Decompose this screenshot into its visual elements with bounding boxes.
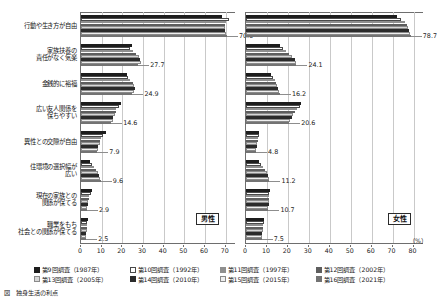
callout-leader-line [268,210,279,211]
category-label: 家族扶養の責任がなく気楽 [36,47,77,62]
callout-leader-line [256,152,267,153]
x-tick-label: 30 [304,247,312,254]
callout-leader-line [97,152,108,153]
bar [81,151,97,154]
x-tick-label: 0 [78,247,82,254]
value-label: 11.2 [281,178,295,185]
legend-swatch [220,267,226,273]
bar-group [246,102,423,124]
x-tick-label: 60 [200,247,208,254]
x-tick-label: 70 [388,247,396,254]
legend-item: 第13回調査（2005年） [34,275,107,284]
legend-item: 第9回調査（1987年） [34,265,103,274]
callout-leader-line [86,239,97,240]
legend-item: 第12回調査（2002年） [316,265,389,274]
plot-area-male: 70.627.724.914.67.99.62.92.5 [80,12,235,244]
bar-group [246,44,423,66]
legend-label: 第10回調査（1992年） [138,265,204,274]
x-tick-label: 70 [221,247,229,254]
axis-unit-label: （%） [409,236,427,245]
callout-leader-line [138,65,149,66]
value-label: 9.6 [113,178,123,185]
bar [81,64,138,67]
value-label: 10.7 [280,207,294,214]
legend-label: 第16回調査（2021年） [324,275,390,284]
legend-swatch [316,267,322,273]
legend-label: 第14回調査（2010年） [138,275,204,284]
callout-leader-line [227,36,238,37]
x-tick-label: 80 [409,247,417,254]
bar [246,122,289,125]
value-label: 27.7 [150,62,164,69]
category-label-line: 保ちやすい [36,112,77,120]
bar [81,122,111,125]
category-label: 行動や生き方が自由 [24,22,77,30]
chart-legend: 第9回調査（1987年）第10回調査（1992年）第11回調査（1997年）第1… [34,265,400,284]
value-label: 7.9 [109,149,119,156]
callout-leader-line [101,181,112,182]
panel-tag-male: 男性 [196,213,219,225]
bar [246,64,296,67]
axis-line-top [81,12,235,13]
value-label: 2.9 [99,207,109,214]
value-label: 14.6 [123,120,137,127]
x-tick-label: 40 [159,247,167,254]
category-label-line: 責任がなく気楽 [36,54,77,62]
panel-female: 78.724.116.220.64.811.210.77.5 [245,12,423,244]
legend-row: 第13回調査（2005年）第14回調査（2010年）第15回調査（2015年）第… [34,275,400,285]
value-label: 7.5 [274,236,284,243]
legend-row: 第9回調査（1987年）第10回調査（1992年）第11回調査（1997年）第1… [34,265,400,275]
callout-leader-line [289,123,300,124]
callout-leader-line [132,94,143,95]
bar-group [246,15,423,37]
legend-label: 第15回調査（2015年） [228,275,294,284]
plot-area-female: 78.724.116.220.64.811.210.77.5 [245,12,423,244]
category-label-line: 行動や生き方が自由 [24,22,77,30]
category-label-line: 金銭的に裕福 [42,80,77,88]
bar [246,238,262,241]
legend-swatch [220,276,226,282]
value-label: 16.2 [292,91,306,98]
bar [81,180,101,183]
value-label: 24.1 [308,62,322,69]
callout-leader-line [280,94,291,95]
bar-group [81,15,235,37]
bar [81,93,132,96]
legend-item: 第10回調査（1992年） [130,265,203,274]
category-label-line: 関係が保てる [36,199,77,207]
x-axis-female: 01020304050607080（%） [245,245,423,259]
bar [246,209,268,212]
x-tick-label: 40 [325,247,333,254]
value-label: 2.5 [98,236,108,243]
legend-item: 第16回調査（2021年） [316,275,389,284]
legend-label: 第12回調査（2002年） [324,265,390,274]
bar-group [81,160,235,182]
callout-leader-line [296,65,307,66]
legend-item: 第14回調査（2010年） [130,275,203,284]
x-tick-label: 20 [283,247,291,254]
figure-caption: 図 独身生活の利点 [4,288,58,297]
bar [81,35,227,38]
x-tick-label: 10 [262,247,270,254]
value-label: 4.8 [268,149,278,156]
bar-group [81,131,235,153]
legend-swatch [34,276,40,282]
callout-leader-line [87,210,98,211]
x-tick-label: 0 [243,247,247,254]
callout-leader-line [269,181,280,182]
callout-leader-line [262,239,273,240]
bar [246,180,269,183]
value-label: 24.9 [144,91,158,98]
x-tick-label: 30 [138,247,146,254]
x-axis-male: 010203040506070 [80,245,235,259]
panel-male: 70.627.724.914.67.99.62.92.5 [80,12,235,244]
legend-label: 第13回調査（2005年） [42,275,108,284]
category-label-line: 広い [30,170,77,178]
category-label-line: 異性との交際が自由 [24,138,77,146]
category-label: 金銭的に裕福 [42,80,77,88]
panel-tag-female: 女性 [388,213,411,225]
category-label-column: 行動や生き方が自由家族扶養の責任がなく気楽金銭的に裕福広い友人関係を保ちやすい異… [0,12,79,244]
x-tick-label: 60 [367,247,375,254]
bar-group [246,160,423,182]
